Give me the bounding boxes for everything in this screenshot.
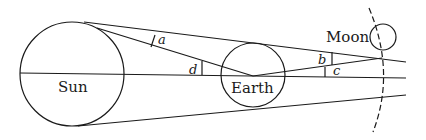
sun-label: Sun (58, 78, 88, 96)
angle-a-label: a (158, 32, 166, 47)
sun-to-earth-center-line (97, 28, 253, 76)
angle-b-label: b (318, 52, 326, 67)
angle-c-label: c (333, 63, 341, 78)
sun-earth-moon-diagram: Sun Earth Moon a d b c (0, 0, 426, 140)
moon-orbit-arc (369, 8, 384, 132)
moon-label: Moon (326, 28, 369, 46)
earth-label: Earth (231, 79, 274, 97)
angle-d-label: d (189, 62, 197, 77)
moon-circle (370, 24, 396, 50)
lower-tangent-line (78, 95, 406, 126)
earth-circle (221, 43, 285, 107)
